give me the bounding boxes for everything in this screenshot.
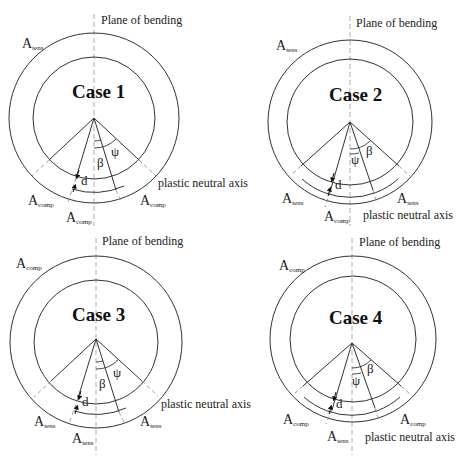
area-label-bottom: Acomp	[324, 209, 350, 225]
sector-ray-right-ext	[139, 160, 156, 176]
plastic-neutral-axis-label: plastic neutral axis	[158, 176, 248, 190]
beta-symbol: β	[366, 143, 373, 158]
inner-ray-left-ext	[69, 398, 78, 424]
area-label-bottom: Atens	[327, 429, 349, 445]
case-title: Case 2	[329, 84, 382, 105]
psi-symbol: ψ	[111, 144, 119, 159]
area-label-bottom: Atens	[72, 431, 94, 447]
area-label-top: Atens	[22, 36, 44, 52]
psi-symbol: ψ	[352, 373, 360, 388]
case-title: Case 4	[329, 307, 383, 328]
area-label-right: Atens	[140, 414, 162, 430]
area-label-bottom: Acomp	[66, 210, 92, 226]
sector-ray-right-ext	[401, 386, 412, 396]
beta-symbol: β	[97, 155, 104, 170]
area-label-right: Atens	[397, 191, 419, 207]
diagram-canvas: Plane of bending Case 1 Atens Acomp Acom…	[0, 0, 471, 458]
beta-symbol: β	[367, 361, 374, 376]
panel-case-4: Plane of bending Case 4 Acomp Acomp Acom…	[270, 235, 455, 455]
case-title: Case 1	[72, 81, 125, 102]
psi-symbol: ψ	[113, 365, 121, 380]
area-label-top: Acomp	[16, 256, 42, 272]
area-label-right: Acomp	[140, 193, 166, 209]
area-label-right: Acomp	[400, 412, 426, 428]
panel-case-2: Plane of bending Case 2 Atens Atens Aten…	[268, 16, 453, 226]
plastic-neutral-axis-label: plastic neutral axis	[363, 208, 453, 222]
area-label-left: Acomp	[28, 193, 54, 209]
plane-of-bending-label: Plane of bending	[101, 13, 182, 27]
inner-ray-right-ext	[119, 412, 124, 422]
sector-ray-left-ext	[291, 166, 301, 175]
psi-symbol: ψ	[351, 152, 359, 167]
area-label-top: Acomp	[279, 258, 305, 274]
d-symbol: d	[82, 394, 89, 409]
panel-case-1: Plane of bending Case 1 Atens Acomp Acom…	[9, 13, 248, 226]
beta-angle-arc	[94, 140, 101, 141]
d-arrow-bottom	[75, 407, 77, 414]
beta-angle-arc	[96, 361, 103, 362]
area-label-left: Acomp	[283, 412, 309, 428]
outer-circle	[270, 256, 436, 422]
sector-ray-left	[303, 343, 352, 386]
d-symbol: d	[335, 177, 342, 192]
sector-ray-left-ext	[293, 386, 303, 395]
area-label-left: Atens	[282, 191, 304, 207]
sector-ray-left-ext	[32, 160, 49, 176]
case-title: Case 3	[72, 304, 125, 325]
sector-ray-left-ext	[34, 381, 51, 397]
sector-ray-right-ext	[399, 166, 410, 176]
d-symbol: d	[336, 396, 343, 411]
plastic-neutral-axis-label: plastic neutral axis	[365, 430, 455, 444]
plastic-neutral-axis-label: plastic neutral axis	[161, 397, 251, 411]
plane-of-bending-label: Plane of bending	[356, 16, 437, 30]
sector-ray-left	[301, 122, 350, 166]
plane-of-bending-label: Plane of bending	[359, 235, 440, 249]
sector-ray-right-ext	[142, 381, 158, 396]
beta-symbol: β	[99, 376, 106, 391]
panel-case-3: Plane of bending Case 3 Acomp Atens Aten…	[10, 234, 251, 455]
plane-of-bending-label: Plane of bending	[102, 234, 183, 248]
area-label-top: Atens	[276, 38, 298, 54]
d-symbol: d	[81, 173, 88, 188]
